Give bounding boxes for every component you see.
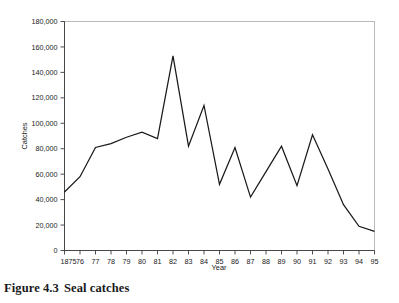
- x-tick-label: 79: [123, 257, 131, 266]
- y-tick-label: 120,000: [32, 93, 58, 102]
- x-tick-label: 76: [76, 257, 84, 266]
- y-tick-label: 100,000: [32, 119, 58, 128]
- x-axis-title: Year: [212, 263, 227, 272]
- y-tick-label: 20,000: [36, 221, 58, 230]
- y-tick-label: 180,000: [32, 17, 58, 26]
- x-tick-label: 94: [355, 257, 363, 266]
- x-tick-label: 95: [371, 257, 379, 266]
- y-tick-label: 80,000: [36, 144, 58, 153]
- y-axis-ticks: 020,00040,00060,00080,000100,000120,0001…: [32, 17, 65, 255]
- figure-container: 020,00040,00060,00080,000100,000120,0001…: [0, 0, 399, 303]
- x-tick-label: 1875: [61, 257, 77, 266]
- x-tick-label: 83: [185, 257, 193, 266]
- x-tick-label: 87: [247, 257, 255, 266]
- x-tick-label: 89: [278, 257, 286, 266]
- x-tick-label: 92: [324, 257, 332, 266]
- x-tick-label: 78: [107, 257, 115, 266]
- x-tick-label: 80: [138, 257, 146, 266]
- figure-caption-text: Seal catches: [64, 281, 129, 295]
- x-tick-label: 93: [340, 257, 348, 266]
- catches-data-line: [65, 56, 375, 232]
- y-tick-label: 140,000: [32, 68, 58, 77]
- y-tick-label: 60,000: [36, 170, 58, 179]
- figure-caption: Figure 4.3Seal catches: [4, 281, 129, 296]
- plot-frame-border: [65, 22, 375, 251]
- x-tick-label: 82: [169, 257, 177, 266]
- y-tick-label: 0: [54, 246, 58, 255]
- x-tick-label: 86: [231, 257, 239, 266]
- seal-catches-line-chart: 020,00040,00060,00080,000100,000120,0001…: [0, 0, 399, 272]
- x-tick-label: 88: [262, 257, 270, 266]
- x-tick-label: 90: [293, 257, 301, 266]
- chart-plot-area: 020,00040,00060,00080,000100,000120,0001…: [0, 0, 399, 272]
- x-tick-label: 77: [92, 257, 100, 266]
- figure-caption-label: Figure 4.3: [4, 281, 59, 295]
- y-tick-label: 160,000: [32, 43, 58, 52]
- y-axis-title: Catches: [20, 122, 29, 149]
- y-tick-label: 40,000: [36, 195, 58, 204]
- x-tick-label: 81: [154, 257, 162, 266]
- x-tick-label: 84: [200, 257, 208, 266]
- x-tick-label: 91: [309, 257, 317, 266]
